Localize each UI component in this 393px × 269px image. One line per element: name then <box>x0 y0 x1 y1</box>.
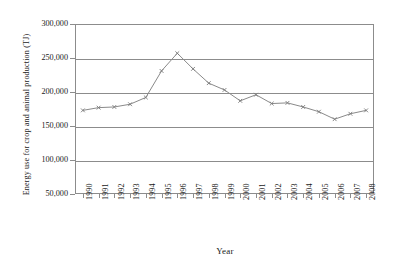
x-tick-label: 1995 <box>165 183 173 200</box>
x-tick-mark <box>162 194 163 198</box>
x-tick-label: 1993 <box>133 183 141 200</box>
x-tick-label: 2006 <box>338 183 346 200</box>
x-axis-title: Year <box>75 246 375 256</box>
x-tick-label: 2008 <box>369 183 377 200</box>
y-tick-label: 200,000 <box>20 88 68 96</box>
y-tick-label: 50,000 <box>20 190 68 198</box>
x-tick-label: 2000 <box>243 183 251 200</box>
series-polyline <box>83 53 366 119</box>
x-tick-mark <box>335 194 336 198</box>
x-tick-mark <box>287 194 288 198</box>
x-tick-mark <box>272 194 273 198</box>
x-tick-label: 1990 <box>86 183 94 200</box>
y-tick-mark <box>70 194 75 195</box>
x-tick-label: 1998 <box>212 183 220 200</box>
x-tick-mark <box>225 194 226 198</box>
x-tick-mark <box>209 194 210 198</box>
x-tick-mark <box>83 194 84 198</box>
x-tick-label: 2002 <box>275 183 283 200</box>
y-tick-label: 250,000 <box>20 54 68 62</box>
y-tick-label: 100,000 <box>20 156 68 164</box>
y-tick-label: 300,000 <box>20 20 68 28</box>
x-tick-mark <box>130 194 131 198</box>
x-tick-mark <box>146 194 147 198</box>
x-tick-mark <box>366 194 367 198</box>
x-tick-mark <box>114 194 115 198</box>
x-tick-label: 2007 <box>354 183 362 200</box>
x-tick-label: 1999 <box>228 183 236 200</box>
x-tick-label: 1992 <box>118 183 126 200</box>
x-tick-mark <box>350 194 351 198</box>
x-tick-label: 1991 <box>102 183 110 200</box>
x-tick-label: 2003 <box>291 183 299 200</box>
x-tick-label: 2004 <box>306 183 314 200</box>
y-tick-label: 150,000 <box>20 122 68 130</box>
x-tick-mark <box>99 194 100 198</box>
series-markers <box>81 51 368 121</box>
x-tick-mark <box>319 194 320 198</box>
x-tick-label: 1996 <box>180 183 188 200</box>
x-tick-mark <box>193 194 194 198</box>
chart-figure: Energy use for crop and animal productio… <box>0 0 393 269</box>
x-tick-label: 2005 <box>322 183 330 200</box>
x-tick-label: 2001 <box>259 183 267 200</box>
x-tick-label: 1997 <box>196 183 204 200</box>
data-series-line <box>75 24 374 194</box>
x-tick-label: 1994 <box>149 183 157 200</box>
x-tick-mark <box>256 194 257 198</box>
